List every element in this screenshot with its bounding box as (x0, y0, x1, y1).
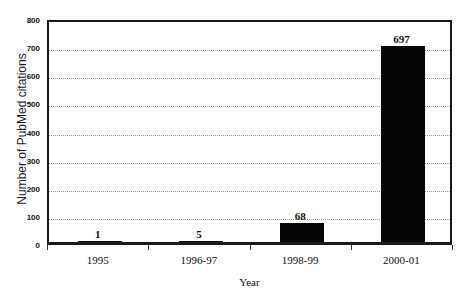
bar[interactable] (78, 241, 122, 243)
x-tick-mark (452, 245, 453, 250)
y-tick-label: 100 (27, 212, 40, 221)
x-category-label: 2000-01 (383, 254, 420, 266)
bar-value-label: 5 (196, 228, 202, 240)
bar-chart-figure: Number of PubMed citations 0100200300400… (0, 0, 467, 300)
y-tick-label: 600 (27, 72, 40, 81)
x-tick-mark (351, 245, 352, 250)
x-category-label: 1998-99 (282, 254, 319, 266)
bar[interactable] (381, 46, 425, 242)
bar-value-label: 68 (295, 210, 306, 222)
y-axis-tick-labels: 0100200300400500600700800 (0, 0, 44, 300)
y-tick-label: 500 (27, 100, 40, 109)
x-tick-mark (148, 245, 149, 250)
bar-slot (353, 22, 454, 242)
y-tick-label: 400 (27, 128, 40, 137)
plot-area (47, 20, 452, 245)
bar[interactable] (280, 223, 324, 242)
bar[interactable] (179, 241, 223, 243)
bars-layer (49, 22, 450, 242)
y-tick-label: 200 (27, 184, 40, 193)
bar-slot (49, 22, 150, 242)
x-tick-mark (47, 245, 48, 250)
y-tick-label: 300 (27, 156, 40, 165)
y-tick-label: 0 (36, 241, 40, 250)
bar-value-label: 697 (393, 33, 410, 45)
x-category-label: 1996-97 (181, 254, 218, 266)
y-tick-label: 700 (27, 44, 40, 53)
bar-value-label: 1 (95, 228, 101, 240)
x-axis-title: Year (47, 276, 452, 288)
x-category-label: 1995 (87, 254, 109, 266)
y-tick-label: 800 (27, 16, 40, 25)
bar-slot (150, 22, 251, 242)
x-tick-mark (250, 245, 251, 250)
